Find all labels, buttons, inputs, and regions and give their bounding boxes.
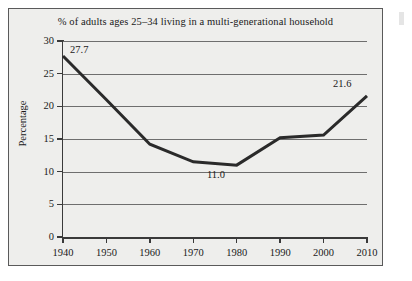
x-tick-label-1980: 1980 bbox=[214, 248, 260, 259]
x-tick-label-2000: 2000 bbox=[301, 248, 347, 259]
data-label-2010: 21.6 bbox=[333, 79, 351, 90]
x-tick-label-2010: 2010 bbox=[344, 248, 390, 259]
x-tick-label-1970: 1970 bbox=[170, 248, 216, 259]
series-line-path bbox=[63, 56, 367, 165]
x-tick-mark-1970 bbox=[193, 237, 195, 243]
y-tick-label-5: 5 bbox=[20, 199, 54, 210]
y-tick-label-10: 10 bbox=[20, 167, 54, 178]
series-line-chart bbox=[63, 41, 367, 237]
data-label-1980: 11.0 bbox=[207, 170, 225, 181]
plot-area bbox=[63, 41, 367, 237]
x-tick-mark-1950 bbox=[106, 237, 108, 243]
y-tick-label-0: 0 bbox=[20, 232, 54, 243]
x-tick-mark-1960 bbox=[149, 237, 151, 243]
x-tick-mark-2000 bbox=[323, 237, 325, 243]
x-tick-label-1940: 1940 bbox=[40, 248, 86, 259]
x-tick-mark-1980 bbox=[236, 237, 238, 243]
y-tick-label-15: 15 bbox=[20, 134, 54, 145]
x-tick-label-1990: 1990 bbox=[257, 248, 303, 259]
x-tick-mark-1990 bbox=[279, 237, 281, 243]
y-tick-label-30: 30 bbox=[20, 36, 54, 47]
x-tick-label-1960: 1960 bbox=[127, 248, 173, 259]
x-tick-mark-2010 bbox=[366, 237, 368, 243]
x-tick-label-1950: 1950 bbox=[83, 248, 129, 259]
chart-figure: % of adults ages 25–34 living in a multi… bbox=[0, 0, 412, 281]
y-tick-label-20: 20 bbox=[20, 101, 54, 112]
y-axis-title: Percentage bbox=[17, 89, 28, 159]
chart-title: % of adults ages 25–34 living in a multi… bbox=[8, 16, 383, 27]
page-edge-artifact bbox=[399, 12, 404, 25]
y-tick-label-25: 25 bbox=[20, 69, 54, 80]
data-label-1940: 27.7 bbox=[70, 45, 88, 56]
x-tick-mark-1940 bbox=[62, 237, 64, 243]
